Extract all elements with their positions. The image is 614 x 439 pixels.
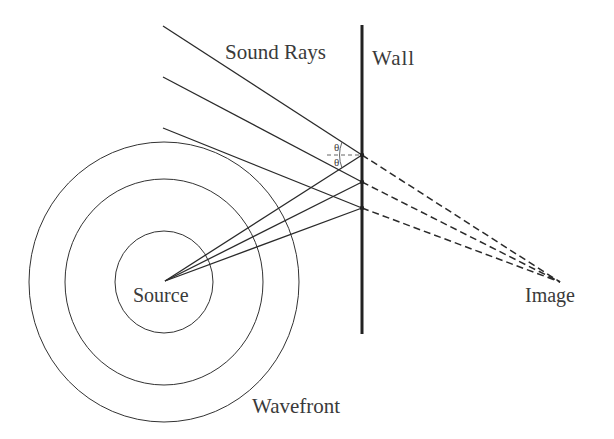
image-label: Image <box>525 284 575 307</box>
reflection-point-1 <box>360 153 364 157</box>
wavefront-inner <box>115 231 213 333</box>
incident-ray-3 <box>165 208 362 281</box>
reflection-point-3 <box>360 206 364 210</box>
wavefront-label: Wavefront <box>252 394 340 418</box>
wavefront-middle <box>65 179 263 385</box>
wavefront-outer <box>29 142 299 422</box>
theta-reflected-label: θ <box>334 156 339 168</box>
reflected-ray-2 <box>163 77 362 182</box>
wall-label: Wall <box>372 46 415 70</box>
reflected-ray-3 <box>163 128 362 208</box>
virtual-ray-1 <box>362 155 560 282</box>
incident-ray-1 <box>165 155 362 281</box>
sound-reflection-diagram: Sound Rays Wall Source Image Wavefront θ… <box>0 0 614 439</box>
incident-ray-2 <box>165 182 362 281</box>
incident-rays <box>165 155 362 281</box>
source-label: Source <box>133 284 189 306</box>
virtual-ray-2 <box>362 182 560 282</box>
sound-rays-label: Sound Rays <box>225 40 326 64</box>
virtual-ray-3 <box>362 208 560 282</box>
theta-incident-label: θ <box>334 141 339 153</box>
wavefront-circles <box>29 142 299 422</box>
virtual-rays <box>362 155 560 282</box>
reflection-point-2 <box>360 180 364 184</box>
